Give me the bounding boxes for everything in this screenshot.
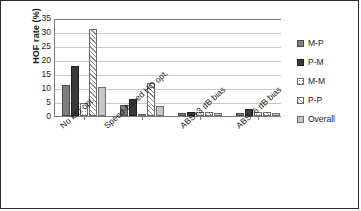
y-axis-tick-labels: 35 30 25 20 15 10 5 0 — [23, 19, 51, 117]
y-tick-30: 30 — [25, 28, 51, 36]
x-tick-0 — [84, 116, 85, 120]
legend-swatch-p-p-icon — [297, 97, 304, 104]
chart-legend: M-P P-M M-M P-P Overall — [297, 39, 359, 134]
x-tick-3 — [258, 116, 259, 120]
bar-3-p-p — [263, 112, 271, 116]
legend-item-overall: Overall — [297, 115, 359, 124]
bar-2-overall — [214, 113, 222, 116]
y-tick-15: 15 — [25, 70, 51, 78]
y-tick-25: 25 — [25, 42, 51, 50]
x-tick-2 — [200, 116, 201, 120]
legend-label-p-m: P-M — [308, 58, 324, 67]
bar-0-m-p — [62, 85, 70, 116]
legend-swatch-m-m-icon — [297, 78, 304, 85]
chart-figure: HOF rate (%) 35 30 25 20 15 10 5 0 — [0, 0, 359, 209]
legend-swatch-m-p-icon — [297, 40, 304, 47]
legend-swatch-overall-icon — [297, 116, 304, 123]
y-tick-0: 0 — [25, 112, 51, 120]
bar-1-overall — [156, 106, 164, 116]
legend-item-m-p: M-P — [297, 39, 359, 48]
y-tick-10: 10 — [25, 84, 51, 92]
legend-label-overall: Overall — [308, 115, 335, 124]
y-tick-5: 5 — [25, 98, 51, 106]
bar-3-overall — [272, 113, 280, 116]
bar-2-p-p — [205, 112, 213, 116]
y-tick-35: 35 — [25, 14, 51, 22]
x-axis-tick-labels: No HO opt. Speed-based HO opt. ABS+3 dB … — [54, 121, 281, 191]
legend-item-m-m: M-M — [297, 77, 359, 86]
bar-0-overall — [98, 87, 106, 116]
x-tick-1 — [142, 116, 143, 120]
legend-label-m-p: M-P — [308, 39, 324, 48]
legend-swatch-p-m-icon — [297, 59, 304, 66]
legend-label-p-p: P-P — [308, 96, 322, 105]
y-tick-20: 20 — [25, 56, 51, 64]
legend-item-p-m: P-M — [297, 58, 359, 67]
legend-label-m-m: M-M — [308, 77, 325, 86]
legend-item-p-p: P-P — [297, 96, 359, 105]
